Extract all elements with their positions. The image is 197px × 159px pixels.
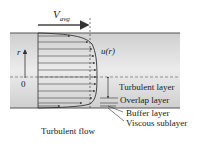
viscous-leader bbox=[108, 108, 124, 121]
v-avg-main: V bbox=[53, 8, 60, 20]
origin-label: 0 bbox=[21, 80, 26, 89]
buffer-layer-label: Buffer layer bbox=[126, 109, 170, 118]
turbulent-layer-label: Turbulent layer bbox=[119, 83, 174, 92]
v-avg-sub: avg bbox=[60, 15, 70, 23]
viscous-sublayer-label: Viscous sublayer bbox=[126, 119, 187, 128]
overlap-layer-label: Overlap layer bbox=[120, 96, 169, 105]
pipe-flow-diagram bbox=[0, 0, 197, 159]
diagram-title: Turbulent flow bbox=[41, 127, 95, 136]
r-axis-label: r bbox=[17, 48, 21, 57]
v-avg-label: Vavg bbox=[53, 9, 70, 23]
velocity-profile-label: u(r) bbox=[101, 47, 115, 56]
